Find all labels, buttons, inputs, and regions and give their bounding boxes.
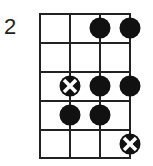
note-dot — [60, 105, 81, 126]
note-dot — [90, 18, 111, 39]
fretboard-grid — [40, 14, 130, 158]
note-dot — [90, 76, 111, 97]
fretboard-diagram — [0, 0, 153, 166]
note-dot — [120, 18, 141, 39]
root-x-icon — [60, 76, 81, 97]
note-dot — [90, 105, 111, 126]
fretboard-border — [40, 14, 130, 158]
note-dot — [120, 76, 141, 97]
root-x-icon — [120, 134, 141, 155]
